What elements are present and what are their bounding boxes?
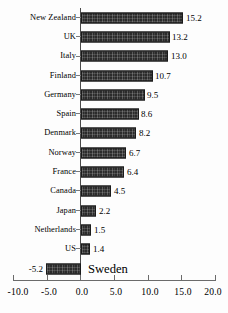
value-label: 10.7	[155, 71, 171, 80]
x-tick	[181, 275, 182, 281]
category-label: Italy	[60, 52, 76, 60]
bar-chart: New Zealand 15.2 UK 13.2 Italy 13.0 Finl…	[0, 0, 228, 313]
bar	[81, 109, 139, 120]
category-label: Canada	[50, 187, 76, 195]
table-row: Italy 13.0	[0, 47, 228, 66]
bar	[81, 167, 124, 178]
table-row: Netherlands 1.5	[0, 220, 228, 239]
y-tick	[76, 190, 81, 191]
value-label: 8.2	[139, 129, 150, 138]
table-row: France 6.4	[0, 162, 228, 181]
table-row: Germany 9.5	[0, 85, 228, 104]
table-row: Denmark 8.2	[0, 124, 228, 143]
table-row: Spain 8.6	[0, 104, 228, 123]
x-tick	[148, 275, 149, 281]
y-tick	[76, 56, 81, 57]
y-tick	[76, 210, 81, 211]
y-tick	[76, 133, 81, 134]
bar	[46, 263, 81, 274]
bar	[81, 224, 91, 235]
table-row: New Zealand 15.2	[0, 8, 228, 27]
y-tick	[76, 229, 81, 230]
value-label: 2.2	[99, 206, 110, 215]
category-label: New Zealand	[30, 13, 76, 21]
y-tick	[76, 36, 81, 37]
table-row: Norway 6.7	[0, 143, 228, 162]
category-label: Finland	[50, 71, 76, 79]
x-tick-label: 0.0	[76, 287, 89, 297]
x-tick-label: 20.0	[204, 287, 222, 297]
y-tick	[76, 75, 81, 76]
bar	[81, 186, 111, 197]
value-label: 13.2	[172, 32, 188, 41]
y-tick	[76, 17, 81, 18]
bar-rows: New Zealand 15.2 UK 13.2 Italy 13.0 Finl…	[0, 8, 228, 278]
category-label: Denmark	[44, 129, 76, 137]
bar	[81, 205, 96, 216]
table-row: Finland 10.7	[0, 66, 228, 85]
y-tick	[76, 248, 81, 249]
category-label: Germany	[44, 91, 76, 99]
value-label: 1.4	[93, 245, 104, 254]
y-tick	[76, 171, 81, 172]
x-tick-label: 10.0	[141, 287, 159, 297]
bar	[81, 70, 153, 81]
bar	[81, 51, 168, 62]
value-label: 1.5	[94, 225, 105, 234]
value-label: 8.6	[141, 110, 152, 119]
category-label: UK	[64, 33, 76, 41]
y-tick	[76, 94, 81, 95]
category-label: Japan	[56, 206, 76, 214]
value-label: 6.4	[127, 168, 138, 177]
bar	[81, 12, 183, 23]
category-label: Norway	[48, 149, 76, 157]
highlight-annotation-sweden: Sweden	[88, 262, 128, 275]
bar	[81, 31, 170, 42]
x-tick-label: -10.0	[8, 287, 29, 297]
category-label: France	[53, 168, 76, 176]
table-row: Canada 4.5	[0, 182, 228, 201]
x-tick-label: 5.0	[110, 287, 123, 297]
bar	[81, 244, 90, 255]
value-label: 6.7	[129, 148, 140, 157]
y-tick	[76, 152, 81, 153]
x-tick-label: 15.0	[174, 287, 192, 297]
category-label: Spain	[56, 110, 76, 118]
category-label: US	[65, 245, 76, 253]
value-label: 15.2	[186, 13, 202, 22]
table-row: UK 13.2	[0, 27, 228, 46]
value-label: 13.0	[171, 52, 187, 61]
x-tick	[114, 275, 115, 281]
x-tick-label: -5.0	[41, 287, 57, 297]
category-label: Netherlands	[34, 226, 76, 234]
value-label: 4.5	[114, 187, 125, 196]
table-row: US 1.4	[0, 240, 228, 259]
x-tick	[215, 275, 216, 281]
value-label: -5.2	[22, 264, 43, 273]
table-row: Japan 2.2	[0, 201, 228, 220]
x-tick	[47, 275, 48, 281]
value-label: 9.5	[147, 90, 158, 99]
x-tick	[13, 275, 14, 281]
bar	[81, 147, 126, 158]
x-tick	[80, 275, 81, 281]
bar	[81, 89, 145, 100]
y-tick	[76, 113, 81, 114]
bar	[81, 128, 136, 139]
